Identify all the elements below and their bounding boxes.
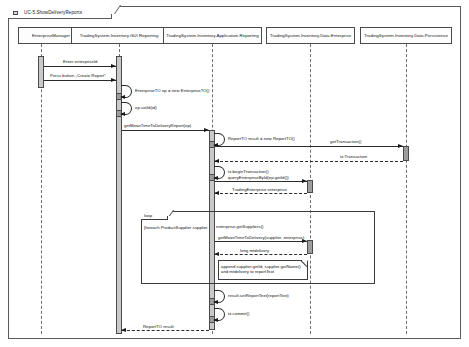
message-arrow-m9 (213, 176, 218, 180)
message-label-m7: getTransaction() (330, 139, 361, 144)
message-line-m5 (122, 130, 209, 131)
message-arrow-m2 (111, 78, 116, 82)
activation-data-enterprise-query (307, 180, 313, 193)
message-line-m7 (215, 146, 403, 147)
message-label-m14: long mtdelivery (240, 248, 269, 253)
message-arrow-m11 (214, 191, 219, 195)
message-label-m9: tx.beginTransaction() (228, 169, 269, 174)
message-label-m5: getMeanTimeToDeliveryReport(ep) (124, 123, 191, 128)
message-arrow-m7 (398, 144, 403, 148)
sequence-diagram-canvas: UC-5.ShowDeliveryReports EnterpriseManag… (0, 0, 469, 347)
note-text: append supplier.getId, supplier.getName(… (221, 264, 305, 275)
message-label-m3: EnterpriseTO ep = new EnterpriseTO() (135, 88, 209, 93)
message-label-m11: TradingEnterprise enterprise (232, 187, 287, 192)
activation-enterprise-manager (38, 56, 44, 88)
message-arrow-m14 (214, 252, 219, 256)
message-label-m13: getMeanTimeToDelivery(supplier, enterpri… (218, 235, 304, 240)
message-arrow-m4 (120, 112, 125, 116)
message-line-m1 (44, 66, 116, 67)
message-label-m6: ReportTO result = new ReportTO() (228, 136, 295, 141)
message-label-m2: Press button „Create Report“ (50, 73, 106, 78)
lifeline-head-data-enterprise[interactable]: TradingSystem.Inventory.Data.Enterprise (266, 27, 355, 44)
message-line-m13 (215, 241, 307, 242)
lifeline-label: TradingSystem.Inventory.Data.Enterprise (270, 33, 351, 38)
lifeline-head-data-persistence[interactable]: TradingSystem.Inventory.Data.Persistence (360, 27, 452, 44)
message-label-m8: tx:Transaction (340, 154, 367, 159)
message-line-m8 (215, 161, 403, 162)
activation-data-persistence (403, 146, 409, 161)
message-arrow-m10 (302, 179, 307, 183)
message-arrow-m1 (111, 64, 116, 68)
uml-frame-icon (13, 11, 18, 15)
message-line-m10 (215, 181, 307, 182)
message-arrow-m3 (120, 95, 125, 99)
message-label-m12: enterprise.getSuppliers() (216, 224, 264, 229)
combined-fragment-operator: loop (144, 213, 152, 218)
message-arrow-m8 (214, 159, 219, 163)
message-line-m14 (215, 254, 307, 255)
message-label-m1: Enter enterpriseId (63, 59, 98, 64)
lifeline-head-gui-reporting[interactable]: TradingSystem.Inventory.GUI.Reporting (71, 27, 167, 44)
message-arrow-m5 (204, 128, 209, 132)
message-arrow-m15 (213, 300, 218, 304)
lifeline-label: TradingSystem.Inventory.Application.Repo… (166, 33, 259, 38)
lifeline-line-data-persistence (406, 44, 407, 334)
lifeline-label: TradingSystem.Inventory.GUI.Reporting (80, 33, 159, 38)
message-line-m11 (215, 193, 307, 194)
message-label-m15: result.setReportText(reportText) (228, 293, 289, 298)
message-label-m17: ReportTO result (143, 324, 174, 329)
diagram-title: UC-5.ShowDeliveryReports (24, 8, 82, 17)
message-label-m4: ep.setId(id) (135, 105, 157, 110)
combined-fragment-guard: [foreach ProductSupplier supplier (144, 225, 208, 230)
message-arrow-m16 (213, 318, 218, 322)
message-label-m16: tx.commit() (228, 311, 249, 316)
lifeline-head-application-reporting[interactable]: TradingSystem.Inventory.Application.Repo… (163, 27, 262, 44)
lifeline-label: TradingSystem.Inventory.Data.Persistence (364, 33, 448, 38)
message-arrow-m17 (121, 328, 126, 332)
message-line-m2 (44, 80, 116, 81)
message-label-m10: queryEnterpriseById(ep.getId()) (228, 175, 289, 180)
lifeline-label: EnterpriseManager (32, 33, 70, 38)
message-line-m17 (122, 330, 209, 331)
